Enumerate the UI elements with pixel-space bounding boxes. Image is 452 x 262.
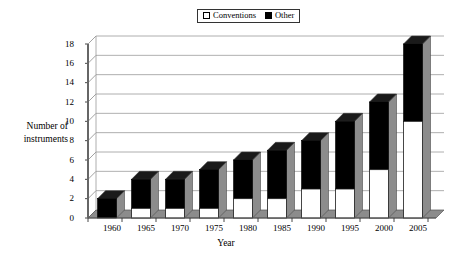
gridline-depth-14 <box>88 75 96 83</box>
bar-segment-other-1965 <box>132 179 151 208</box>
bar-segment-conventions-1965 <box>132 208 151 218</box>
gridline-depth-18 <box>88 36 96 44</box>
bar-side-1990 <box>321 133 329 218</box>
gridline-depth-16 <box>88 55 96 63</box>
bar-2000 <box>370 94 397 218</box>
gridline-depth-2 <box>88 191 96 199</box>
gridline-depth-10 <box>88 113 96 121</box>
bar-segment-other-1975 <box>200 170 219 209</box>
bar-segment-conventions-1990 <box>302 189 321 218</box>
bar-segment-conventions-2005 <box>404 121 423 218</box>
bar-side-1995 <box>355 113 363 218</box>
bar-segment-other-1985 <box>268 150 287 198</box>
bar-side-1980 <box>253 152 261 218</box>
gridline-depth-4 <box>88 171 96 179</box>
chart-plot-area <box>0 0 452 262</box>
bar-1970 <box>166 171 193 218</box>
bar-segment-conventions-1975 <box>200 208 219 218</box>
bar-segment-conventions-1980 <box>234 199 253 218</box>
bar-side-2000 <box>389 94 397 218</box>
bar-side-1975 <box>219 162 227 218</box>
bar-1965 <box>132 171 159 218</box>
bar-segment-conventions-1995 <box>336 189 355 218</box>
gridline-depth-12 <box>88 94 96 102</box>
bar-segment-other-1980 <box>234 160 253 199</box>
bar-segment-conventions-2000 <box>370 170 389 218</box>
bar-segment-other-1960 <box>98 199 117 218</box>
bar-side-2005 <box>423 36 431 218</box>
chart-figure: Conventions Other Number of instruments … <box>0 0 452 262</box>
bar-1980 <box>234 152 261 218</box>
bar-1975 <box>200 162 227 218</box>
bar-side-1985 <box>287 142 295 218</box>
bar-1960 <box>98 191 125 218</box>
bar-segment-other-2005 <box>404 44 423 121</box>
bar-segment-other-2000 <box>370 102 389 170</box>
gridline-depth-8 <box>88 133 96 141</box>
bar-segment-conventions-1970 <box>166 208 185 218</box>
bar-segment-other-1995 <box>336 121 355 189</box>
bar-2005 <box>404 36 431 218</box>
gridline-depth-6 <box>88 152 96 160</box>
bar-segment-other-1970 <box>166 179 185 208</box>
bar-1990 <box>302 133 329 218</box>
bar-1995 <box>336 113 363 218</box>
bar-segment-other-1990 <box>302 141 321 189</box>
bar-segment-conventions-1985 <box>268 199 287 218</box>
bar-1985 <box>268 142 295 218</box>
